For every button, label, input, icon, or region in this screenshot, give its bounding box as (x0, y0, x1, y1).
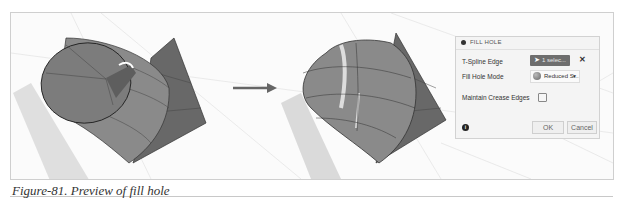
figure-caption: Figure-81. Preview of fill hole (12, 183, 170, 199)
clear-selection-icon[interactable]: ✕ (579, 55, 586, 64)
collapse-dot-icon[interactable] (461, 40, 466, 45)
reduced-star-icon (533, 72, 541, 80)
maintain-crease-edges-checkbox[interactable] (538, 93, 547, 102)
fill-hole-mode-dropdown[interactable]: Reduced S... ▼ (530, 70, 580, 83)
info-icon[interactable]: i (462, 124, 469, 131)
cancel-button[interactable]: Cancel (567, 121, 597, 134)
fill-hole-dialog: FILL HOLE T-Spline Edge ➤ 1 selec... ✕ F… (455, 36, 600, 139)
chevron-down-icon: ▼ (572, 73, 577, 79)
dialog-header: FILL HOLE (456, 37, 599, 50)
tspline-edge-select-button[interactable]: ➤ 1 selec... (530, 55, 570, 66)
fill-hole-mode-label: Fill Hole Mode (462, 73, 504, 80)
dialog-title: FILL HOLE (470, 39, 502, 45)
figure-frame: FILL HOLE T-Spline Edge ➤ 1 selec... ✕ F… (10, 12, 614, 180)
tspline-edge-label: T-Spline Edge (462, 58, 503, 65)
ok-button[interactable]: OK (532, 121, 564, 134)
cursor-arrow-icon: ➤ (534, 56, 540, 64)
right-arrow-icon (233, 83, 277, 93)
maintain-crease-edges-label: Maintain Crease Edges (462, 94, 530, 101)
